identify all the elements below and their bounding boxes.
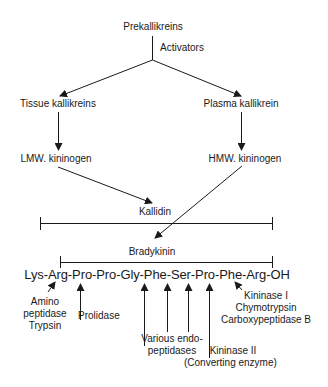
kininase-ii-label: Kininase II (Converting enzyme) (184, 345, 276, 369)
arrow-to-plasma-kallikrein (153, 60, 242, 96)
tissue-kallikreins-label: Tissue kallikreins (20, 98, 96, 110)
hmw-kininogen-label: HMW. kininogen (209, 153, 282, 165)
activators-label: Activators (160, 42, 204, 54)
bradykinin-label: Bradykinin (129, 246, 176, 258)
plasma-kallikrein-label: Plasma kallikrein (203, 98, 278, 110)
arrow-kininase-i (235, 282, 242, 290)
kallidin-label: Kallidin (139, 206, 171, 218)
arrow-hmw-to-bradykinin (155, 166, 242, 238)
prolidase-label: Prolidase (78, 310, 120, 322)
prekallikreins-label: Prekallikreins (123, 21, 182, 33)
lmw-kininogen-label: LMW. kininogen (20, 153, 91, 165)
peptide-sequence: Lys-Arg-Pro-Pro-Gly-Phe-Ser-Pro-Phe-Arg-… (24, 267, 289, 282)
arrow-lmw-to-kallidin (58, 167, 152, 203)
arrow-aminopeptidase (48, 282, 55, 292)
kininase-i-label: Kininase I Chymotrypsin Carboxypeptidase… (218, 290, 314, 326)
aminopeptidase-label: Amino peptidase Trypsin (22, 296, 68, 332)
arrow-to-tissue-kallikreins (60, 60, 153, 96)
